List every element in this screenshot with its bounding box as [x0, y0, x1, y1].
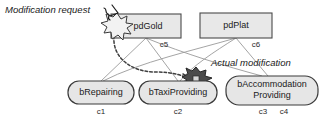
connector-label-c6: c6 [252, 40, 261, 49]
dashed-propagation-path [114, 36, 191, 82]
pdplat-label: pdPlat [223, 20, 249, 30]
diagram-svg: pdGold pdPlat bRepairing bTaxi [0, 0, 326, 123]
link-pdgold-brepairing [101, 38, 146, 81]
connector-label-c2: c2 [174, 107, 183, 116]
node-pdplat[interactable]: pdPlat [200, 13, 272, 38]
btaxiproviding-label: bTaxiProviding [149, 87, 208, 97]
brepairing-label: bRepairing [79, 87, 123, 97]
connector-label-c4: c4 [280, 107, 289, 116]
baccommodationproviding-label-line1: bAccommodation [237, 79, 307, 89]
diagram-canvas: pdGold pdPlat bRepairing bTaxi [0, 0, 326, 123]
node-baccommodationproviding[interactable]: bAccommodation Providing [226, 76, 318, 105]
connector-label-c1: c1 [97, 107, 106, 116]
connector-label-c3: c3 [259, 107, 268, 116]
node-brepairing[interactable]: bRepairing [68, 81, 134, 104]
annotation-modification-request: Modification request [5, 4, 90, 15]
pdgold-label: pdGold [133, 21, 162, 31]
annotation-actual-modification: Actual modification [210, 57, 291, 68]
connector-label-c5: c5 [160, 40, 169, 49]
node-btaxiproviding[interactable]: bTaxiProviding [139, 81, 217, 104]
baccommodationproviding-label-line2: Providing [253, 90, 291, 100]
